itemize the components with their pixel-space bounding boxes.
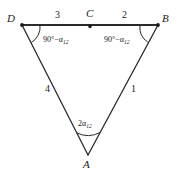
vertex-label-D: D — [7, 13, 15, 24]
line-BA — [88, 25, 158, 155]
vertex-label-A: A — [83, 159, 90, 170]
angle-label-B: 90°−α12 — [104, 36, 129, 44]
line-DA — [22, 25, 88, 155]
angle-arc-A — [76, 132, 100, 135]
segment-label-DA: 4 — [45, 84, 50, 94]
angle-label-B-subscript: 12 — [124, 39, 130, 45]
vertex-label-C: C — [86, 8, 93, 19]
segment-label-CB: 2 — [122, 10, 127, 20]
angle-label-D: 90°−α12 — [43, 36, 68, 44]
geometry-figure: D C B A 3 2 4 1 90°−α12 90°−α12 2α12 — [0, 0, 176, 179]
vertex-dot-D — [20, 23, 24, 27]
angle-arc-D — [31, 25, 40, 43]
vertex-dot-C — [88, 25, 91, 28]
angle-label-D-text: 90°−α — [43, 35, 63, 44]
vertex-dot-B — [156, 23, 160, 27]
angle-label-B-text: 90°−α — [104, 35, 124, 44]
angle-label-A-subscript: 12 — [86, 123, 92, 129]
angle-label-A: 2α12 — [78, 120, 92, 128]
segment-label-BA: 1 — [131, 84, 136, 94]
angle-arc-B — [140, 25, 148, 42]
vertex-label-B: B — [162, 13, 169, 24]
angle-label-D-subscript: 12 — [63, 39, 69, 45]
segment-label-DC: 3 — [55, 10, 60, 20]
angle-label-A-text: 2α — [78, 119, 86, 128]
figure-canvas — [0, 0, 176, 179]
